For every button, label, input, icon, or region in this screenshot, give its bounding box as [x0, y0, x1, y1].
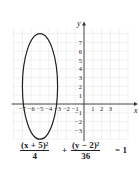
x-tick-label: −4: [45, 105, 53, 112]
x-tick-label: −2: [63, 105, 70, 112]
y-tick-label: −3: [75, 127, 82, 134]
y-tick-label: −1: [75, 109, 82, 116]
fraction-y: (y − 2)² 36: [71, 140, 100, 162]
ellipse-equation: (x + 5)² 4 + (y − 2)² 36 = 1: [20, 140, 130, 172]
y-tick-label: 3: [79, 74, 82, 81]
plus-sign: +: [62, 145, 67, 155]
y-axis-arrow-icon: [82, 22, 86, 26]
y-tick-label: 2: [79, 83, 82, 90]
fraction-x: (x + 5)² 4: [20, 140, 49, 162]
equals-one: = 1: [115, 145, 127, 155]
y-tick-label: −2: [75, 118, 82, 125]
x-tick-label: −5: [37, 105, 44, 112]
y-tick-label: 5: [79, 57, 82, 64]
fraction-y-denominator: 36: [71, 151, 100, 162]
x-tick-label: 2: [100, 105, 103, 112]
fraction-x-denominator: 4: [20, 151, 49, 162]
x-tick-label: −6: [28, 105, 36, 112]
y-tick-label: 1: [79, 92, 82, 99]
x-tick-label: −7: [19, 105, 27, 112]
x-tick-label: 1: [91, 105, 94, 112]
grid: [14, 30, 128, 140]
y-axis-label: y: [76, 19, 81, 28]
x-axis-label: x: [133, 106, 138, 115]
fraction-x-numerator: (x + 5)²: [20, 140, 49, 151]
fraction-y-numerator: (y − 2)²: [71, 140, 100, 151]
x-tick-label: 3: [109, 105, 112, 112]
